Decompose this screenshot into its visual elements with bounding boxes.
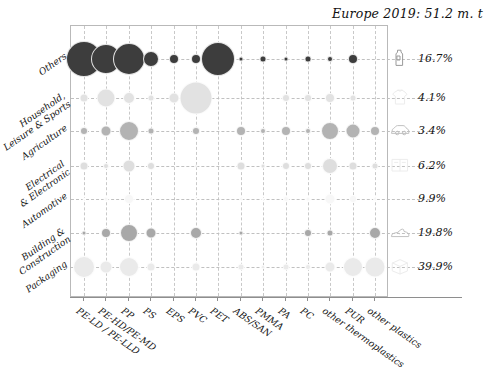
bubble-marker xyxy=(192,263,201,272)
bubble-marker xyxy=(239,197,243,201)
legend-percentage: 39.9% xyxy=(418,260,453,273)
bubble-marker xyxy=(370,126,380,136)
bubble-marker xyxy=(327,230,334,237)
bubble-marker xyxy=(80,162,89,171)
bubble-marker xyxy=(349,195,357,203)
car-icon xyxy=(389,121,411,139)
bubble-marker xyxy=(304,229,312,237)
bubble-marker xyxy=(236,126,246,136)
bubble-marker xyxy=(147,263,156,272)
grid-line-vertical xyxy=(174,26,175,296)
bubble-marker xyxy=(124,194,134,204)
bottle-icon xyxy=(389,49,411,67)
bubble-marker xyxy=(237,264,244,271)
x-axis-tick xyxy=(285,297,286,301)
bubble-marker xyxy=(322,158,338,174)
appliance-icon xyxy=(389,156,411,174)
legend-icon-wrap xyxy=(388,87,412,107)
bubble-marker xyxy=(148,95,155,102)
bubble-marker xyxy=(238,231,243,236)
bubble-marker xyxy=(147,162,155,170)
shoe-icon xyxy=(389,223,411,241)
x-axis-label: PS xyxy=(142,305,159,321)
grid-line-vertical xyxy=(308,26,309,296)
legend-icon-wrap xyxy=(388,256,412,276)
bubble-marker xyxy=(304,94,312,102)
x-axis-tick xyxy=(195,297,196,301)
legend-row: 9.9% xyxy=(388,187,446,209)
bubble-marker xyxy=(143,51,159,67)
bubble-marker xyxy=(283,57,288,62)
bubble-marker xyxy=(343,257,363,277)
legend-percentage: 19.8% xyxy=(418,226,453,239)
bubble-marker xyxy=(305,128,311,134)
legend-percentage: 3.4% xyxy=(418,124,446,137)
bubble-marker xyxy=(325,194,336,205)
bubble-marker xyxy=(282,162,290,170)
x-axis-label: PET xyxy=(209,305,231,325)
bubble-marker xyxy=(119,121,139,141)
bubble-marker xyxy=(372,163,379,170)
bubble-marker xyxy=(82,231,87,236)
x-axis-label: EPS xyxy=(164,305,186,325)
bubble-marker xyxy=(103,163,109,169)
bubble-marker xyxy=(122,160,135,173)
bubble-marker xyxy=(325,262,336,273)
legend-row: 16.7% xyxy=(388,47,453,69)
bubble-marker xyxy=(101,228,111,238)
x-axis-tick xyxy=(150,297,151,301)
bubble-marker xyxy=(101,126,112,137)
bubble-marker xyxy=(73,256,95,278)
tshirt-icon xyxy=(389,88,411,106)
bubble-marker xyxy=(119,257,139,277)
plot-area xyxy=(70,25,388,297)
x-axis-tick xyxy=(128,297,129,301)
legend-row: 4.1% xyxy=(388,86,446,108)
bubble-marker xyxy=(281,126,291,136)
x-axis-labels: PE-LD / PE-LLDPE-HD/PE-MDPPPSEPSPVCPETAB… xyxy=(0,297,491,391)
bubble-marker xyxy=(349,95,356,102)
bubble-marker xyxy=(146,228,157,239)
bubble-marker xyxy=(261,265,265,269)
legend-percentage: 4.1% xyxy=(418,91,446,104)
bubble-marker xyxy=(283,196,289,202)
bubble-marker xyxy=(321,122,339,140)
bubble-marker xyxy=(83,198,86,201)
bubble-marker xyxy=(260,128,266,134)
bubble-marker xyxy=(113,43,145,75)
bubble-marker xyxy=(195,198,198,201)
bubble-marker xyxy=(236,162,245,171)
legend-percentage: 6.2% xyxy=(418,159,446,172)
bubble-marker xyxy=(369,227,381,239)
bubble-marker xyxy=(148,128,155,135)
legend-row: 3.4% xyxy=(388,119,446,141)
bubble-marker xyxy=(345,124,360,139)
bubble-marker xyxy=(282,94,290,102)
bubble-marker xyxy=(365,257,386,278)
x-axis-tick xyxy=(374,297,375,301)
bubble-marker xyxy=(190,227,202,239)
legend-row: 6.2% xyxy=(388,154,446,176)
bubble-marker xyxy=(373,197,377,201)
legend-icon-wrap xyxy=(388,48,412,68)
legend-row: 39.9% xyxy=(388,255,453,277)
bubble-marker xyxy=(304,162,312,170)
bubble-marker xyxy=(100,261,113,274)
bubble-marker xyxy=(149,197,153,201)
bubble-marker xyxy=(261,164,266,169)
bubble-marker xyxy=(260,56,267,63)
bubble-marker xyxy=(282,264,289,271)
bubble-marker xyxy=(180,82,213,115)
x-axis-label: PC xyxy=(299,305,316,322)
bubble-marker xyxy=(123,92,135,104)
page-title: Europe 2019: 51.2 m. t xyxy=(332,6,483,21)
x-axis-line xyxy=(70,297,462,298)
legend-icon-wrap xyxy=(388,188,412,208)
bubble-marker xyxy=(327,56,333,62)
grid-line-vertical xyxy=(286,26,287,296)
y-axis-label: Others xyxy=(37,51,69,77)
bubble-marker xyxy=(169,54,179,64)
bubble-marker xyxy=(192,127,200,135)
legend-icon-wrap xyxy=(388,120,412,140)
bubble-marker xyxy=(348,54,358,64)
